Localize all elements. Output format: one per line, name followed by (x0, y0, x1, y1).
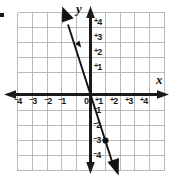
y-tick-label-neg4: −4 (93, 151, 101, 160)
y-axis-letter: y (76, 2, 82, 15)
x-tick-label-pos3: +3 (125, 97, 133, 106)
x-tick-label-pos2: +2 (110, 97, 118, 106)
line-arrow-upper-left (62, 7, 74, 23)
y-tick-label-pos3: +3 (94, 33, 102, 42)
coordinate-plane-plot (0, 0, 173, 181)
y-tick-label-pos4: +4 (94, 18, 102, 27)
x-tick-label-neg2: −2 (44, 97, 52, 106)
x-tick-label-neg1: −1 (58, 97, 66, 106)
y-tick-label-neg3: −3 (93, 136, 101, 145)
line-arrow-lower-right (108, 158, 120, 176)
x-tick-label-neg4: −4 (14, 97, 22, 106)
y-tick-label-pos2: +2 (94, 48, 102, 57)
x-axis-arrow-right (157, 90, 169, 99)
y-tick-label-neg1: −1 (93, 106, 101, 115)
x-axis-letter: x (156, 73, 163, 86)
x-tick-label-neg3: −3 (29, 97, 37, 106)
x-tick-label-pos4: +4 (140, 97, 148, 106)
coordinate-plane-figure: x y 0 −4 −3 −2 −1 +1 +2 +3 +4 +4 +3 +2 +… (0, 0, 173, 181)
data-point-1-neg3 (102, 137, 108, 143)
y-tick-label-pos1: +1 (94, 63, 102, 72)
y-axis-arrow-down (86, 162, 95, 174)
y-tick-label-neg2: −2 (93, 121, 101, 130)
origin-label: 0 (84, 97, 89, 106)
